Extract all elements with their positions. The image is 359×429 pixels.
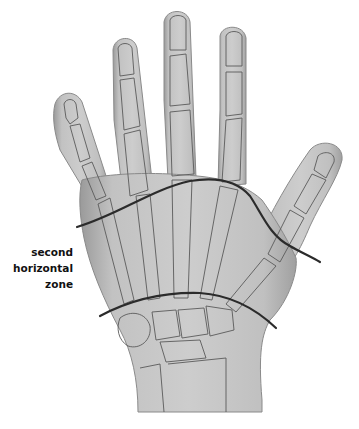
- zone-label: second horizontal zone: [0, 244, 73, 292]
- hand-silhouette: [54, 12, 342, 413]
- zone-label-line-1: second: [0, 244, 73, 260]
- hand-illustration: [0, 0, 359, 429]
- hand-anatomy-figure: second horizontal zone: [0, 0, 359, 429]
- zone-label-line-3: zone: [0, 276, 73, 292]
- zone-label-line-2: horizontal: [0, 260, 73, 276]
